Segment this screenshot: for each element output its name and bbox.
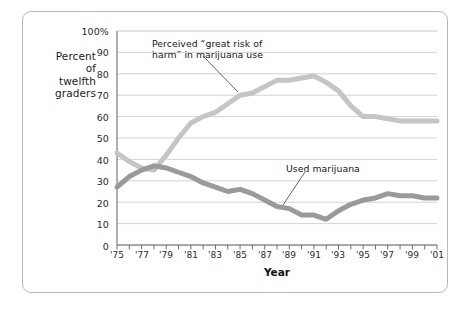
leader-line-used-marijuana <box>283 172 305 205</box>
series-line-used-marijuana <box>117 166 437 220</box>
chart-figure: Percent of twelfth graders 100% 90 80 70… <box>0 0 467 309</box>
series-line-perceived-risk <box>117 76 437 170</box>
plot-area <box>0 0 467 309</box>
